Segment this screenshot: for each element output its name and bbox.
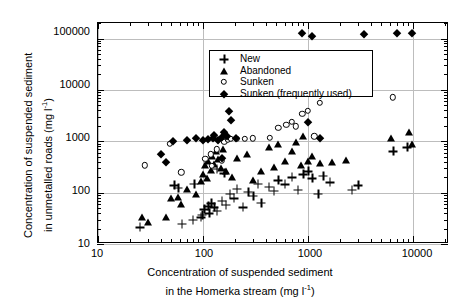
- y-tick-label-100000: 100000: [28, 25, 90, 37]
- axis-tick: [444, 54, 448, 55]
- data-point-circle: [305, 108, 311, 114]
- axis-tick: [413, 236, 414, 243]
- data-point-diamond: [298, 29, 306, 37]
- axis-tick: [358, 22, 359, 26]
- axis-tick: [308, 22, 309, 29]
- data-point-plus: [389, 147, 398, 156]
- axis-tick: [408, 22, 409, 26]
- data-point-plus: [232, 184, 241, 193]
- axis-tick: [97, 98, 101, 99]
- data-point-triangle: [203, 175, 211, 182]
- axis-tick: [444, 168, 448, 169]
- axis-tick: [444, 149, 448, 150]
- y-tick-label-10000: 10000: [28, 78, 90, 90]
- axis-tick: [444, 105, 448, 106]
- axis-tick: [97, 65, 101, 66]
- data-point-plus: [287, 173, 296, 182]
- axis-tick: [97, 146, 101, 147]
- legend-label-abandoned: Abandoned: [240, 65, 291, 76]
- data-point-triangle: [219, 146, 227, 153]
- data-point-triangle: [192, 190, 200, 197]
- axis-tick: [298, 22, 299, 26]
- axis-tick: [444, 50, 448, 51]
- data-point-circle: [142, 162, 148, 168]
- x-axis-title: Concentration of suspended sediment in t…: [90, 264, 390, 299]
- axis-tick: [444, 110, 448, 111]
- axis-tick: [187, 22, 188, 26]
- data-point-triangle: [177, 201, 185, 208]
- axis-tick: [98, 236, 99, 243]
- x-axis-title-line2-post: ): [311, 285, 315, 297]
- gridline-horizontal: [98, 244, 447, 245]
- axis-tick: [444, 201, 448, 202]
- data-point-triangle: [308, 152, 316, 159]
- data-point-triangle: [342, 157, 350, 164]
- axis-tick: [97, 54, 101, 55]
- axis-tick: [371, 239, 372, 243]
- axis-tick: [97, 208, 101, 209]
- data-point-triangle: [387, 135, 395, 142]
- axis-tick: [444, 153, 448, 154]
- axis-tick: [340, 239, 341, 243]
- data-point-triangle: [233, 154, 241, 161]
- axis-tick: [444, 162, 448, 163]
- axis-tick: [203, 236, 204, 243]
- data-point-triangle: [405, 129, 413, 136]
- axis-tick: [198, 22, 199, 26]
- axis-tick: [97, 220, 101, 221]
- axis-tick: [203, 22, 204, 29]
- axis-tick: [444, 92, 448, 93]
- axis-tick: [97, 90, 104, 91]
- axis-tick: [148, 22, 149, 26]
- axis-tick: [381, 239, 382, 243]
- legend-item-abandoned: Abandoned: [210, 66, 372, 77]
- data-point-triangle: [328, 158, 336, 165]
- y-axis-title-line2-post: ): [42, 98, 54, 102]
- data-point-diamond: [162, 158, 170, 166]
- axis-tick: [371, 22, 372, 26]
- data-point-circle: [275, 125, 281, 131]
- data-point-plus: [308, 174, 317, 183]
- axis-tick: [390, 22, 391, 26]
- axis-tick: [444, 157, 448, 158]
- axis-tick: [444, 43, 448, 44]
- triangle-marker-icon: [220, 67, 228, 74]
- data-point-plus: [229, 194, 238, 203]
- axis-tick: [444, 204, 448, 205]
- data-point-triangle: [144, 218, 152, 225]
- axis-tick: [285, 239, 286, 243]
- axis-tick: [97, 117, 101, 118]
- axis-tick: [198, 239, 199, 243]
- x-axis-title-sup: -1: [304, 283, 311, 292]
- axis-tick: [381, 22, 382, 26]
- x-axis-title-line1: Concentration of suspended sediment: [90, 264, 390, 280]
- axis-tick: [193, 22, 194, 26]
- axis-tick: [276, 22, 277, 26]
- legend-item-sunken: Sunken: [210, 77, 372, 88]
- axis-tick: [161, 22, 162, 26]
- axis-tick: [444, 46, 448, 47]
- data-point-plus: [257, 198, 266, 207]
- axis-tick: [285, 22, 286, 26]
- x-axis-title-line2-pre: in the Homerka stream (mg l: [165, 285, 304, 297]
- axis-tick: [97, 213, 101, 214]
- axis-tick: [445, 239, 446, 243]
- axis-tick: [97, 105, 101, 106]
- axis-tick: [444, 208, 448, 209]
- axis-tick: [444, 195, 448, 196]
- axis-tick: [444, 229, 448, 230]
- axis-tick: [97, 110, 101, 111]
- data-point-plus: [314, 189, 323, 198]
- circle-marker-icon: [221, 79, 227, 85]
- axis-tick: [358, 239, 359, 243]
- data-point-triangle: [228, 173, 236, 180]
- data-point-plus: [212, 206, 221, 215]
- data-point-triangle: [274, 141, 282, 148]
- axis-tick: [444, 23, 448, 24]
- legend-label-new: New: [240, 53, 260, 64]
- axis-tick: [180, 239, 181, 243]
- data-point-plus: [269, 186, 278, 195]
- axis-tick: [97, 193, 104, 194]
- data-point-triangle: [270, 163, 278, 170]
- axis-tick: [97, 92, 101, 93]
